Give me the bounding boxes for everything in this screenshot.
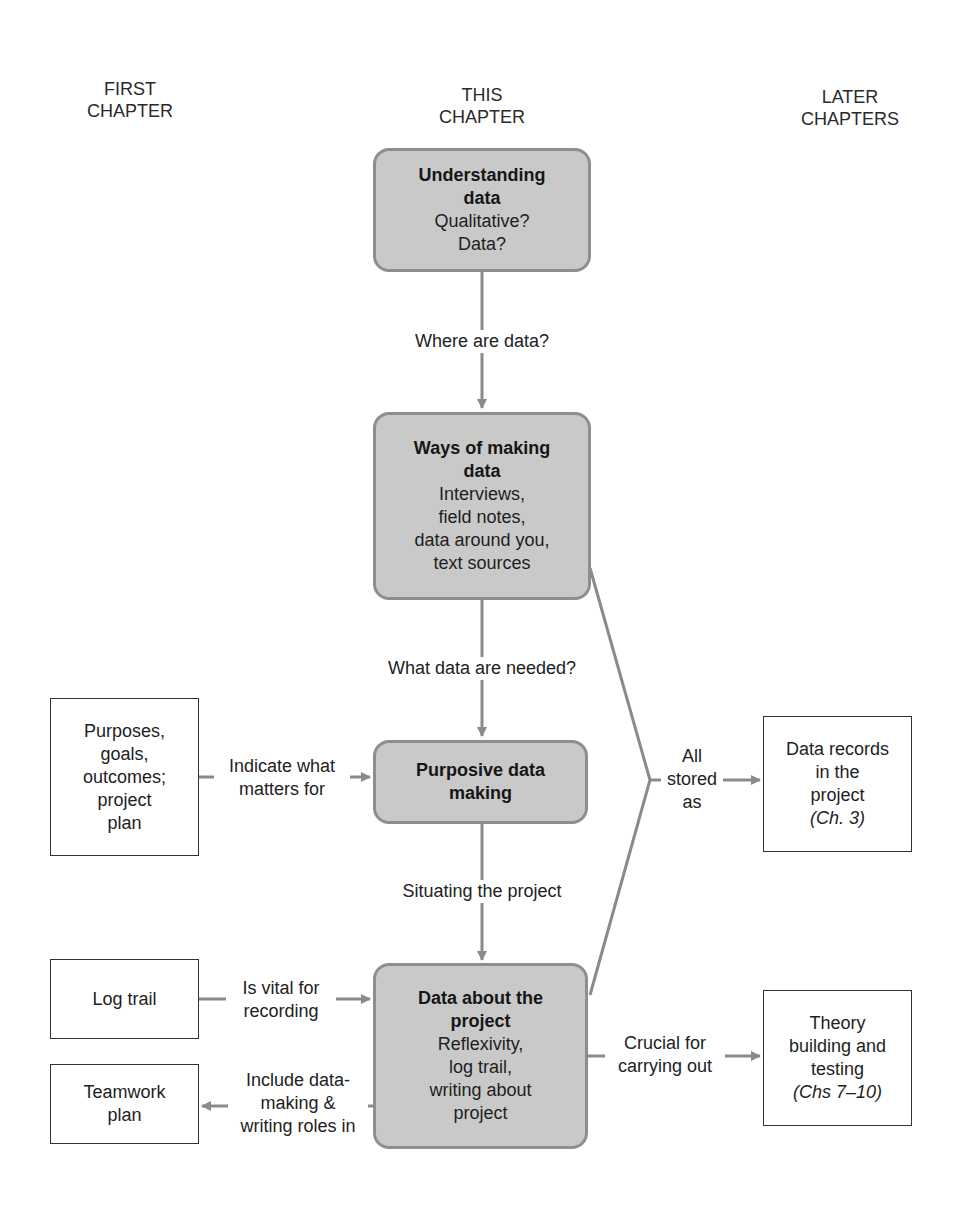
column-header-later-chapters: LATER CHAPTERS — [795, 86, 905, 130]
header-line: CHAPTER — [80, 100, 180, 122]
header-line: THIS — [432, 84, 532, 106]
label-line: writing roles in — [228, 1115, 368, 1138]
label-include-roles: Include data- making & writing roles in — [228, 1069, 368, 1138]
label-line: Where are data? — [392, 330, 572, 353]
label-what-data-needed: What data are needed? — [364, 657, 600, 680]
node-text: text sources — [433, 552, 530, 575]
node-text: project — [97, 789, 151, 812]
chapter-reference: (Chs 7–10) — [793, 1081, 882, 1104]
node-theory-building: Theory building and testing (Chs 7–10) — [763, 990, 912, 1126]
label-vital-for-recording: Is vital for recording — [226, 977, 336, 1023]
node-text: Data? — [458, 233, 506, 256]
node-text: data around you, — [414, 529, 549, 552]
label-line: Indicate what — [214, 755, 350, 778]
node-title: data — [463, 187, 500, 210]
bracket-stored — [590, 568, 650, 995]
node-text: Data records — [786, 738, 889, 761]
label-line: Is vital for — [226, 977, 336, 1000]
label-line: carrying out — [605, 1055, 725, 1078]
label-line: stored — [661, 768, 723, 791]
node-text: plan — [107, 1104, 141, 1127]
label-line: What data are needed? — [364, 657, 600, 680]
label-line: All — [661, 745, 723, 768]
label-line: Situating the project — [380, 880, 584, 903]
label-crucial-for: Crucial for carrying out — [605, 1032, 725, 1078]
node-title: project — [450, 1010, 510, 1033]
header-line: CHAPTERS — [795, 108, 905, 130]
label-all-stored-as: All stored as — [661, 745, 723, 814]
node-title: Data about the — [418, 987, 543, 1010]
node-title: making — [449, 782, 512, 805]
node-ways-of-making-data: Ways of making data Interviews, field no… — [373, 412, 591, 600]
node-text: plan — [107, 812, 141, 835]
label-indicate-what-matters: Indicate what matters for — [214, 755, 350, 801]
node-text: log trail, — [449, 1056, 512, 1079]
header-line: FIRST — [80, 78, 180, 100]
node-text: Reflexivity, — [438, 1033, 524, 1056]
node-text: project — [810, 784, 864, 807]
label-line: Include data- — [228, 1069, 368, 1092]
node-data-about-the-project: Data about the project Reflexivity, log … — [373, 963, 588, 1149]
node-title: Ways of making — [414, 437, 550, 460]
node-text: outcomes; — [83, 766, 166, 789]
node-purposes-goals: Purposes, goals, outcomes; project plan — [50, 698, 199, 856]
label-situating-project: Situating the project — [380, 880, 584, 903]
node-text: building and — [789, 1035, 886, 1058]
node-text: project — [453, 1102, 507, 1125]
node-text: in the — [815, 761, 859, 784]
label-where-are-data: Where are data? — [392, 330, 572, 353]
node-text: Log trail — [92, 988, 156, 1011]
node-text: Qualitative? — [434, 210, 529, 233]
label-line: making & — [228, 1092, 368, 1115]
node-text: writing about — [429, 1079, 531, 1102]
node-text: Purposes, — [84, 720, 165, 743]
node-text: Theory — [809, 1012, 865, 1035]
node-text: field notes, — [438, 506, 525, 529]
node-text: testing — [811, 1058, 864, 1081]
label-line: Crucial for — [605, 1032, 725, 1055]
node-purposive-data-making: Purposive data making — [373, 740, 588, 824]
node-understanding-data: Understanding data Qualitative? Data? — [373, 148, 591, 272]
node-log-trail: Log trail — [50, 959, 199, 1039]
node-title: Understanding — [418, 164, 545, 187]
node-text: Interviews, — [439, 483, 525, 506]
node-title: Purposive data — [416, 759, 545, 782]
label-line: matters for — [214, 778, 350, 801]
label-line: recording — [226, 1000, 336, 1023]
node-teamwork-plan: Teamwork plan — [50, 1064, 199, 1144]
chapter-reference: (Ch. 3) — [810, 807, 865, 830]
node-text: goals, — [100, 743, 148, 766]
header-line: CHAPTER — [432, 106, 532, 128]
column-header-first-chapter: FIRST CHAPTER — [80, 78, 180, 122]
node-text: Teamwork — [83, 1081, 165, 1104]
header-line: LATER — [795, 86, 905, 108]
label-line: as — [661, 791, 723, 814]
node-title: data — [463, 460, 500, 483]
column-header-this-chapter: THIS CHAPTER — [432, 84, 532, 128]
node-data-records: Data records in the project (Ch. 3) — [763, 716, 912, 852]
